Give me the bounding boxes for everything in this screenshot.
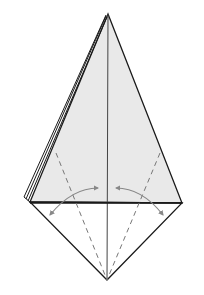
- paper-upper-flap: [30, 14, 182, 203]
- paper-lower-triangle: [30, 202, 182, 280]
- origami-diagram: [0, 0, 204, 295]
